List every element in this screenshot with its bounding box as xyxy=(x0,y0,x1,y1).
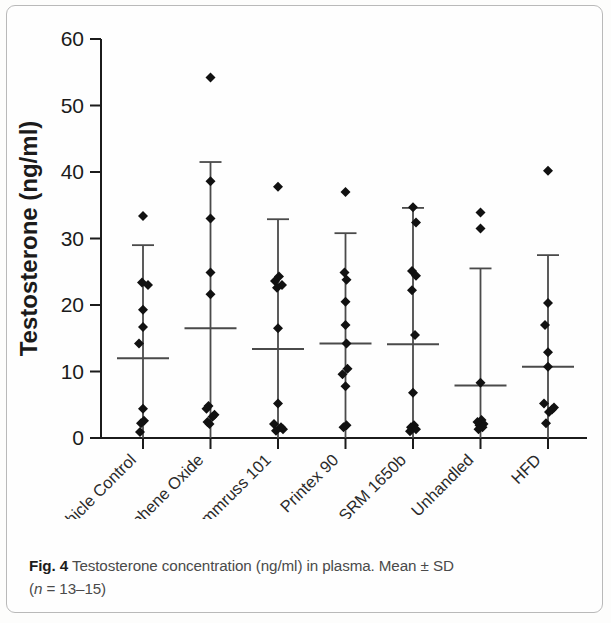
data-point xyxy=(342,275,352,285)
data-point xyxy=(206,73,216,83)
data-point xyxy=(341,297,351,307)
datapoint-layer xyxy=(134,73,559,437)
data-point xyxy=(410,330,420,340)
data-point xyxy=(138,305,148,315)
errorbar-graphene-oxide xyxy=(185,162,237,438)
category-label-layer: Vehicle ControlGraphene OxideFlammruss 1… xyxy=(48,450,544,519)
caption-second-line: (n = 13–15) xyxy=(29,577,589,600)
data-point xyxy=(341,320,351,330)
data-point xyxy=(341,381,351,391)
data-point xyxy=(476,208,486,218)
x-category-label: Vehicle Control xyxy=(48,450,139,519)
figure-caption: Fig. 4 Testosterone concentration (ng/ml… xyxy=(29,554,589,600)
data-point xyxy=(407,285,417,295)
x-axis-ticks xyxy=(143,438,548,449)
x-category-label: Printex 90 xyxy=(276,450,341,515)
caption-body: Testosterone concentration (ng/ml) in pl… xyxy=(72,557,454,574)
data-point xyxy=(138,322,148,332)
data-point xyxy=(342,339,352,349)
x-category-label: Unhandled xyxy=(407,450,476,519)
caption-figure-number: Fig. 4 xyxy=(29,557,68,574)
y-tick-label: 10 xyxy=(61,360,84,383)
figure-page: 0102030405060 Vehicle ControlGraphene Ox… xyxy=(0,0,611,623)
data-point xyxy=(476,224,486,234)
data-point xyxy=(138,404,148,414)
errorbar-unhandled xyxy=(455,268,507,438)
figure-card: 0102030405060 Vehicle ControlGraphene Ox… xyxy=(6,5,603,613)
data-point xyxy=(543,298,553,308)
data-point xyxy=(541,418,551,428)
y-tick-label: 50 xyxy=(61,94,84,117)
data-point xyxy=(340,267,350,277)
y-tick-label: 60 xyxy=(61,27,84,50)
data-point xyxy=(543,362,553,372)
data-point xyxy=(206,176,216,186)
x-category-label: SRM 1650b xyxy=(335,450,409,519)
data-point xyxy=(543,166,553,176)
errorbar-printex-90 xyxy=(320,233,372,438)
data-point xyxy=(273,182,283,192)
data-point xyxy=(341,187,351,197)
y-tick-label: 30 xyxy=(61,227,84,250)
data-point xyxy=(206,289,216,299)
caption-n-value: = 13–15) xyxy=(42,580,106,597)
data-point xyxy=(408,202,418,212)
y-axis-title: Testosterone (ng/ml) xyxy=(15,121,42,357)
scatter-plot: 0102030405060 Vehicle ControlGraphene Ox… xyxy=(7,6,604,519)
data-point xyxy=(408,388,418,398)
data-point xyxy=(543,347,553,357)
plot-svg: 0102030405060 Vehicle ControlGraphene Ox… xyxy=(7,6,604,519)
data-point xyxy=(273,323,283,333)
y-axis-ticks: 0102030405060 xyxy=(61,27,101,449)
data-point xyxy=(138,211,148,221)
y-tick-label: 40 xyxy=(61,160,84,183)
y-tick-label: 0 xyxy=(72,426,84,449)
data-point xyxy=(206,267,216,277)
x-category-label: HFD xyxy=(507,450,544,487)
data-point xyxy=(273,398,283,408)
data-point xyxy=(206,214,216,224)
errorbar-srm-1650b xyxy=(387,208,439,438)
y-tick-label: 20 xyxy=(61,293,84,316)
